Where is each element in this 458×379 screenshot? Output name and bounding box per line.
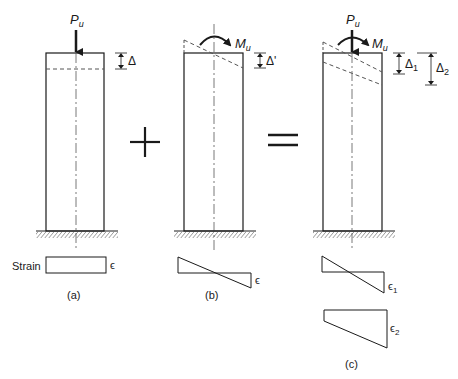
displacement-label: Δ	[128, 54, 136, 68]
axial-load-label: Pu	[346, 12, 360, 29]
caption-c: (c)	[345, 358, 358, 370]
bending-strain-diagram	[322, 256, 384, 293]
moment-label: Mu	[372, 36, 388, 53]
fixed-support-hatch	[174, 232, 256, 238]
strain-symbol: ϵ	[255, 274, 260, 286]
uniform-strain-diagram	[46, 257, 106, 273]
panel-a: Pu Δ Strain ϵ (a)	[12, 12, 136, 301]
displacement-2-label: Δ2	[436, 61, 449, 77]
combined-deformed-top-line	[323, 62, 382, 85]
equals-sign	[268, 135, 298, 145]
fixed-support-hatch	[36, 232, 118, 238]
plus-sign	[130, 127, 160, 157]
strain-1-symbol: ϵ1	[388, 280, 398, 295]
strain-symbol: ϵ	[110, 259, 115, 271]
strain-2-symbol: ϵ2	[390, 322, 400, 337]
panel-c: Pu Mu Δ1 Δ2 ϵ1 ϵ2 (c)	[313, 12, 449, 370]
strain-label: Strain	[12, 260, 41, 272]
column-superposition-diagram: Pu Δ Strain ϵ (a) Mu	[0, 0, 458, 379]
column-c	[323, 53, 382, 231]
caption-a: (a)	[67, 289, 80, 301]
fixed-support-hatch	[313, 232, 395, 238]
axial-load-label: Pu	[70, 12, 84, 29]
combined-strain-diagram	[324, 310, 387, 348]
bending-strain-diagram	[178, 257, 251, 288]
column-b	[184, 53, 243, 231]
column-a	[46, 53, 104, 231]
displacement-1-label: Δ1	[405, 57, 418, 73]
caption-b: (b)	[205, 289, 218, 301]
moment-label: Mu	[235, 36, 251, 53]
panel-b: Mu Δ' ϵ (b)	[174, 24, 276, 301]
displacement-label: Δ'	[266, 54, 276, 68]
moment-arrow-icon	[200, 37, 230, 46]
